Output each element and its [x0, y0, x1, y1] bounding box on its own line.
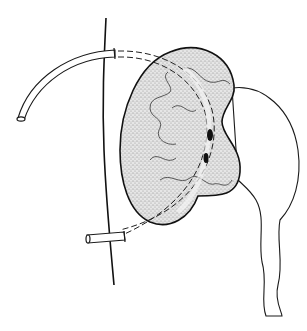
catheter-side-hole	[207, 129, 213, 141]
catheter-tube-lower-external	[87, 232, 125, 243]
renal-pelvis	[232, 88, 299, 316]
kidney-parenchyma	[120, 48, 240, 225]
catheter-tip-upper	[17, 117, 25, 121]
illustration-svg	[0, 0, 307, 331]
kidney-catheter-illustration	[0, 0, 307, 331]
catheter-tip-lower	[86, 235, 90, 243]
catheter-tube-upper-external	[18, 50, 115, 120]
catheter-side-hole	[204, 153, 209, 163]
